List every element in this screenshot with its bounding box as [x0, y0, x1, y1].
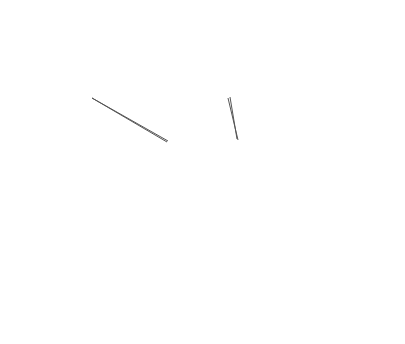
- connector-lines: [0, 0, 405, 344]
